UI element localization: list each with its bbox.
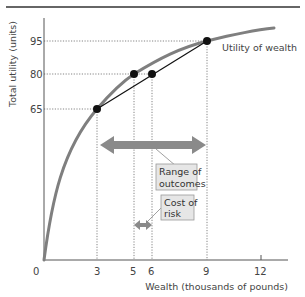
y-tick-80: 80	[30, 69, 43, 80]
guide-lines	[44, 41, 207, 260]
point-9-95	[203, 37, 211, 45]
x-tick-12-label: 12	[254, 266, 267, 277]
range-leader	[156, 149, 176, 166]
x-tick-3: 3	[94, 266, 100, 277]
y-tick-65: 65	[30, 104, 43, 115]
cost-label-1: Cost of	[164, 197, 198, 208]
cost-arrow	[134, 220, 152, 230]
x-axis-title: Wealth (thousands of pounds)	[145, 281, 288, 292]
range-arrow	[100, 136, 206, 154]
y-axis-title: Total utility (units)	[7, 21, 18, 108]
point-3-65	[93, 105, 101, 113]
cost-label-2: risk	[164, 208, 181, 219]
x-tick-9: 9	[203, 266, 209, 277]
y-tick-95: 95	[30, 36, 43, 47]
chart: Range of outcomes Cost of risk Utility o…	[0, 0, 305, 297]
x-tick-6: 6	[148, 266, 154, 277]
x-tick-5: 5	[130, 266, 136, 277]
range-label-2: outcomes	[159, 178, 206, 189]
point-5-80	[130, 70, 138, 78]
x-tick-0: 0	[33, 266, 39, 277]
curve-label: Utility of wealth	[222, 42, 297, 53]
point-6-80	[148, 70, 156, 78]
range-label-1: Range of	[159, 166, 202, 177]
